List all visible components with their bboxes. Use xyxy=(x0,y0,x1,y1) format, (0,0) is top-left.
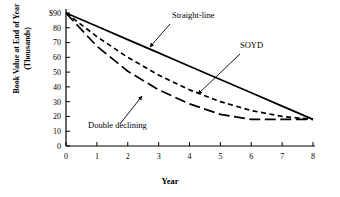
data-series xyxy=(66,13,313,119)
x-tick-label: 5 xyxy=(218,152,222,161)
y-tick-label: 50 xyxy=(53,68,61,77)
chart-plot-area: 01020304050607080$90 012345678 Straight-… xyxy=(0,0,340,197)
y-tick-label: 70 xyxy=(53,38,61,47)
y-tick-label: 60 xyxy=(53,53,61,62)
x-tick-label: 7 xyxy=(280,152,284,161)
y-tick-label: 40 xyxy=(53,83,61,92)
x-axis-title: Year xyxy=(0,176,340,186)
depreciation-chart-figure: 01020304050607080$90 012345678 Straight-… xyxy=(0,0,340,197)
y-axis-title: Book Value at End of Year (Thousands) xyxy=(12,0,33,107)
series-annotation-label: SOYD xyxy=(240,40,263,50)
y-tick-label: 30 xyxy=(53,98,61,107)
y-axis-tick-labels: 01020304050607080$90 xyxy=(49,9,61,151)
x-axis-tick-labels: 012345678 xyxy=(64,152,315,161)
series-annotations: Straight-lineSOYDDouble declining xyxy=(88,10,263,130)
x-tick-label: 0 xyxy=(64,152,68,161)
x-tick-label: 1 xyxy=(95,152,99,161)
x-tick-label: 2 xyxy=(126,152,130,161)
x-tick-label: 3 xyxy=(157,152,161,161)
y-tick-label: 20 xyxy=(53,112,61,121)
annotation-leader-lines xyxy=(120,24,240,124)
leader-line xyxy=(198,54,240,94)
series-line xyxy=(66,13,313,119)
y-tick-label: 10 xyxy=(53,127,61,136)
x-tick-label: 4 xyxy=(188,152,192,161)
x-tick-label: 8 xyxy=(311,152,315,161)
y-tick-label: 0 xyxy=(57,142,61,151)
x-tick-label: 6 xyxy=(249,152,253,161)
y-tick-label: 80 xyxy=(53,24,61,33)
series-annotation-label: Straight-line xyxy=(172,10,215,20)
y-axis-title-line1: Book Value at End of Year xyxy=(12,0,23,107)
y-tick-label: $90 xyxy=(49,9,61,18)
series-annotation-label: Double declining xyxy=(88,120,148,130)
leader-line xyxy=(150,24,170,47)
y-axis-title-line2: (Thousands) xyxy=(22,0,33,107)
